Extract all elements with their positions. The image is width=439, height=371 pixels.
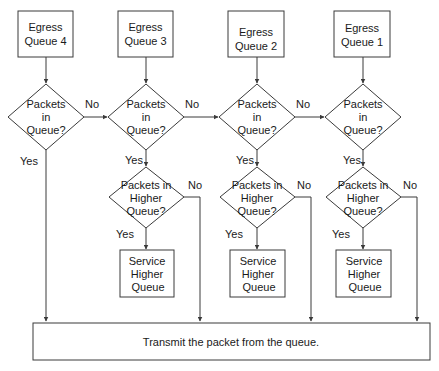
egress-queue-1-line2: Queue 1 — [341, 36, 383, 48]
decision-q2-line2: in — [253, 111, 262, 123]
decision-q3-packets-in-queue: Packets in Queue? — [108, 84, 184, 150]
service-higher-queue-q1-box: Service Higher Queue — [336, 250, 391, 297]
column-queue-2: Egress Queue 2 Packets in Queue? No Yes … — [219, 11, 324, 321]
label-q2-higher-no: No — [297, 179, 311, 191]
decision-q2-packets-in-higher-queue: Packets in Higher Queue? — [220, 167, 295, 228]
transmit-packet-box: Transmit the packet from the queue. — [33, 323, 430, 360]
decision-q1-line2: in — [359, 111, 368, 123]
egress-queue-2-box: Egress Queue 2 — [228, 11, 284, 57]
egress-queue-2-line2: Queue 2 — [235, 40, 277, 52]
label-q1-higher-no: No — [403, 179, 417, 191]
egress-queue-1-line1: Egress — [345, 22, 380, 34]
service-q2-line3: Queue — [242, 281, 275, 293]
label-q4-yes: Yes — [20, 155, 38, 167]
service-q3-line2: Higher — [131, 268, 164, 280]
label-q3-yes: Yes — [125, 154, 143, 166]
decision-q1-packets-in-queue: Packets in Queue? — [325, 84, 401, 150]
label-q2-no: No — [296, 98, 310, 110]
egress-queue-4-box: Egress Queue 4 — [18, 11, 73, 57]
higher-q1-line2: Higher — [347, 192, 380, 204]
decision-q4-packets-in-queue: Packets in Queue? — [8, 84, 84, 150]
label-q3-no: No — [185, 98, 199, 110]
arrow-q3-higher-no — [184, 197, 200, 321]
egress-queue-4-line2: Queue 4 — [24, 35, 66, 47]
label-q3-higher-no: No — [188, 179, 202, 191]
column-queue-3: Egress Queue 3 Packets in Queue? No Yes … — [108, 11, 218, 321]
transmit-label: Transmit the packet from the queue. — [143, 336, 319, 348]
higher-q3-line1: Packets in — [121, 179, 172, 191]
decision-q3-line2: in — [142, 111, 151, 123]
label-q3-higher-yes: Yes — [116, 228, 134, 240]
egress-queue-3-line1: Egress — [128, 21, 163, 33]
label-q1-higher-yes: Yes — [332, 228, 350, 240]
higher-q3-line3: Queue? — [126, 205, 165, 217]
service-q3-line3: Queue — [131, 281, 164, 293]
decision-q1-line3: Queue? — [343, 124, 382, 136]
label-q2-higher-yes: Yes — [225, 228, 243, 240]
decision-q4-line2: in — [42, 111, 51, 123]
label-q4-no: No — [85, 98, 99, 110]
service-q1-line1: Service — [346, 255, 383, 267]
column-queue-1: Egress Queue 1 Packets in Queue? Yes Pac… — [325, 11, 417, 321]
decision-q1-packets-in-higher-queue: Packets in Higher Queue? — [326, 167, 401, 228]
service-q2-line1: Service — [240, 255, 277, 267]
service-higher-queue-q2-box: Service Higher Queue — [230, 250, 285, 297]
decision-q4-line1: Packets — [26, 98, 66, 110]
higher-q3-line2: Higher — [130, 192, 163, 204]
decision-q3-line3: Queue? — [126, 124, 165, 136]
higher-q2-line1: Packets in — [232, 179, 283, 191]
column-queue-4: Egress Queue 4 Packets in Queue? No Yes — [8, 11, 107, 321]
arrow-q1-higher-no — [401, 197, 417, 321]
higher-q2-line2: Higher — [241, 192, 274, 204]
decision-q2-packets-in-queue: Packets in Queue? — [219, 84, 295, 150]
decision-q2-line1: Packets — [237, 98, 277, 110]
service-q3-line1: Service — [129, 255, 166, 267]
higher-q1-line3: Queue? — [343, 205, 382, 217]
label-q1-yes: Yes — [343, 154, 361, 166]
service-q1-line3: Queue — [348, 281, 381, 293]
arrow-q2-higher-no — [295, 197, 311, 321]
egress-queue-2-line1: Egress — [239, 26, 274, 38]
egress-queue-1-box: Egress Queue 1 — [334, 11, 390, 57]
decision-q2-line3: Queue? — [237, 124, 276, 136]
egress-queue-flowchart: Egress Queue 4 Packets in Queue? No Yes … — [0, 0, 439, 371]
egress-queue-3-box: Egress Queue 3 — [118, 11, 173, 57]
service-q1-line2: Higher — [348, 268, 381, 280]
decision-q3-line1: Packets — [126, 98, 166, 110]
decision-q1-line1: Packets — [343, 98, 383, 110]
service-q2-line2: Higher — [242, 268, 275, 280]
egress-queue-3-line2: Queue 3 — [124, 35, 166, 47]
higher-q2-line3: Queue? — [237, 205, 276, 217]
decision-q4-line3: Queue? — [26, 124, 65, 136]
label-q2-yes: Yes — [236, 154, 254, 166]
egress-queue-4-line1: Egress — [28, 21, 63, 33]
service-higher-queue-q3-box: Service Higher Queue — [120, 250, 174, 297]
decision-q3-packets-in-higher-queue: Packets in Higher Queue? — [109, 167, 184, 228]
higher-q1-line1: Packets in — [338, 179, 389, 191]
